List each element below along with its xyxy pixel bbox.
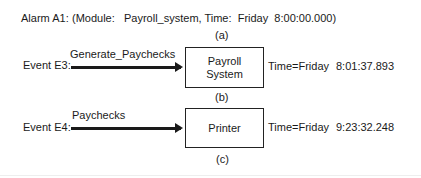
caption-c: (c)	[216, 153, 229, 165]
bottom-divider	[0, 175, 421, 176]
alarm-a1-label: Alarm A1:	[21, 12, 69, 24]
event-e3-time-label: Time=Friday	[268, 60, 329, 72]
event-e4-arrow-icon	[71, 127, 181, 130]
event-e3-label: Event E3:	[23, 59, 71, 71]
event-e3-arrow-icon	[71, 66, 181, 69]
event-e3-time-value: 8:01:37.893	[336, 60, 394, 72]
printer-box: Printer	[185, 108, 264, 148]
caption-a: (a)	[215, 29, 228, 41]
printer-label: Printer	[208, 122, 240, 135]
event-e4-time-value: 9:23:32.248	[336, 121, 394, 133]
event-e4-label: Event E4:	[23, 121, 71, 133]
alarm-a1-details: (Module: Payroll_system, Time: Friday 8:…	[72, 12, 336, 24]
event-e4-time-label: Time=Friday	[268, 121, 329, 133]
event-e4-arrow-label: Paychecks	[72, 109, 125, 121]
payroll-system-box: Payroll System	[185, 47, 264, 88]
payroll-system-line-1: Payroll	[206, 55, 243, 68]
payroll-system-line-2: System	[206, 68, 243, 81]
event-e3-arrow-label: Generate_Paychecks	[70, 48, 175, 60]
caption-b: (b)	[215, 91, 228, 103]
